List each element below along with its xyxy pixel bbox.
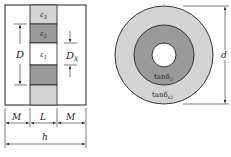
dim-D-label: D [15, 49, 24, 60]
inner-hole [152, 43, 176, 67]
dim-L-label: L [39, 112, 46, 122]
figure: ε3 ε2 ε1 D DX M L M h [0, 0, 231, 157]
dim-M-left-label: M [11, 112, 22, 122]
layer-eps3-bottom [30, 85, 57, 105]
coaxial-sample-diagram: tanδ2 tanδs3 d [115, 6, 229, 104]
dim-M-right-label: M [65, 112, 76, 122]
dim-d-label: d [221, 50, 227, 60]
dim-h-label: h [42, 132, 48, 142]
layer-eps2-bottom [30, 65, 57, 85]
layered-sample-diagram: ε3 ε2 ε1 D DX M L M h [5, 5, 86, 148]
